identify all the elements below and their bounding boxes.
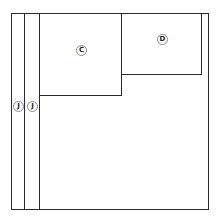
label-d: D <box>157 34 168 45</box>
label-c: C <box>76 45 87 56</box>
label-j-2: J <box>27 101 38 112</box>
diagram: C D J J <box>0 0 216 218</box>
strip-divider-1 <box>24 13 25 210</box>
label-j-1: J <box>13 101 24 112</box>
